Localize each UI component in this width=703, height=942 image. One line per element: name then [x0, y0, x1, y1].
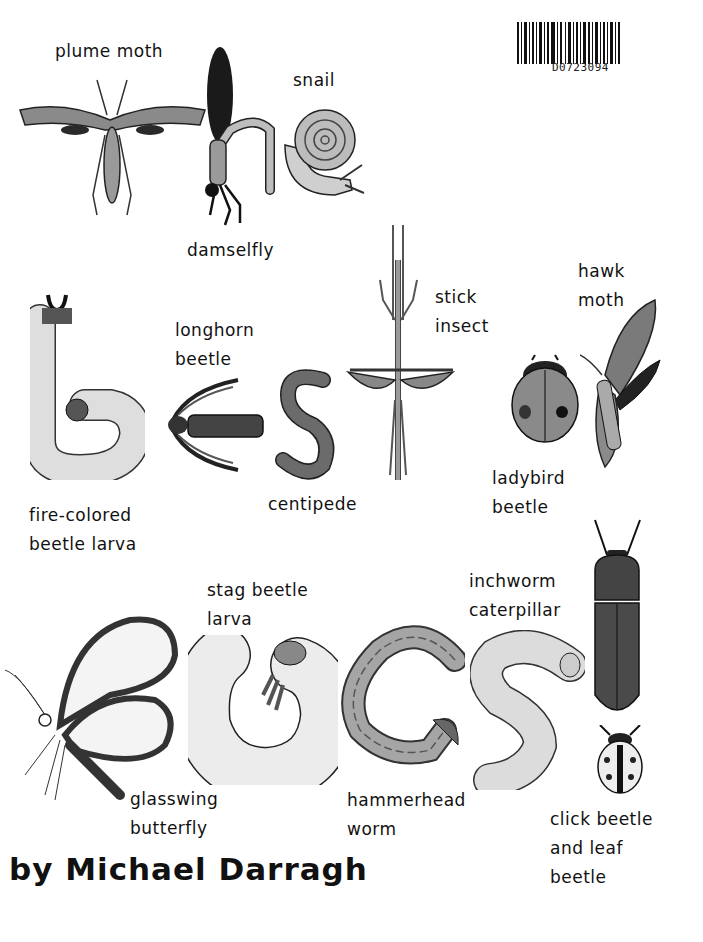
inchworm-caterpillar-illustration — [470, 630, 585, 790]
label-glasswing-butterfly: glasswingbutterfly — [130, 785, 218, 843]
plume-moth-illustration — [15, 75, 210, 225]
label-ladybird-beetle: ladybirdbeetle — [492, 464, 565, 522]
barcode-number: D0723094 — [552, 61, 609, 74]
label-damselfly: damselfly — [187, 236, 274, 265]
label-inchworm-caterpillar: inchwormcaterpillar — [469, 567, 561, 625]
click-beetle-illustration — [585, 515, 650, 720]
hawk-moth-illustration — [580, 295, 665, 470]
damselfly-illustration — [195, 45, 285, 230]
longhorn-beetle-illustration — [148, 375, 268, 475]
label-centipede: centipede — [268, 490, 357, 519]
snail-illustration — [280, 105, 365, 200]
label-hawk-moth: hawkmoth — [578, 257, 625, 315]
centipede-illustration — [268, 365, 343, 485]
label-stag-beetle-larva: stag beetlelarva — [207, 576, 308, 634]
ladybird-beetle-illustration — [510, 350, 580, 445]
label-snail: snail — [293, 66, 335, 95]
label-longhorn-beetle: longhornbeetle — [175, 316, 254, 374]
stag-beetle-larva-illustration — [188, 635, 338, 785]
author-credit: by Michael Darragh — [9, 851, 368, 887]
label-hammerhead-worm: hammerheadworm — [347, 786, 466, 844]
label-fire-colored-beetle-larva: fire-coloredbeetle larva — [29, 501, 137, 559]
label-plume-moth: plume moth — [55, 37, 163, 66]
stick-insect-illustration — [345, 220, 460, 485]
leaf-beetle-illustration — [595, 725, 645, 795]
fire-colored-beetle-larva-illustration — [30, 290, 145, 480]
barcode — [517, 22, 621, 64]
glasswing-butterfly-illustration — [0, 605, 180, 805]
label-click-and-leaf-beetle: click beetleand leafbeetle — [550, 805, 653, 892]
hammerhead-worm-illustration — [340, 620, 465, 770]
label-stick-insect: stickinsect — [435, 283, 489, 341]
